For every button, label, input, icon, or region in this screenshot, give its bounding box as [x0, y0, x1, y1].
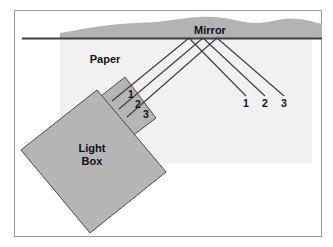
incident-ray-label-1: 1 [128, 88, 134, 100]
reflected-ray-label-2: 2 [262, 97, 268, 109]
diagram-figure: Light Box Mirror Paper 1 2 3 1 2 3 [0, 0, 333, 247]
incident-ray-label-3: 3 [143, 108, 149, 120]
light-box-label-line2: Box [82, 155, 104, 167]
reflected-ray-label-1: 1 [243, 97, 249, 109]
mirror-label: Mirror [194, 24, 227, 36]
paper-label: Paper [90, 53, 121, 65]
light-box-label-line1: Light [79, 142, 106, 154]
reflected-ray-label-3: 3 [281, 97, 287, 109]
incident-ray-label-2: 2 [135, 98, 141, 110]
